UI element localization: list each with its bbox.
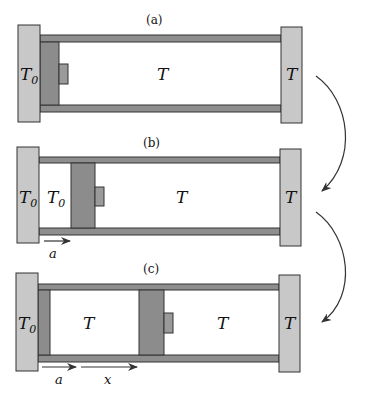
piston-nub [59,64,68,84]
piston-nub [164,313,173,333]
piston-diagram: (a) T0 T T (b) T0 T0 T T a (c) [0,0,366,395]
middle-label: T [83,313,96,333]
left-piston [38,290,50,355]
right-reservoir-label: T [284,313,297,333]
piston-nub [95,187,104,206]
bottom-rail [40,105,281,112]
panel-a: (a) T0 T T [18,13,302,123]
piston [40,42,59,105]
panel-b: (b) T0 T0 T T a [17,136,301,261]
arrow-a-label: a [49,246,57,261]
bottom-rail [39,228,280,235]
panel-c-caption: (c) [143,262,159,276]
top-rail [40,35,281,42]
arrow-a-label: a [55,372,63,387]
top-rail [38,284,279,290]
piston [139,290,164,355]
gas-left-label: T0 [47,187,65,210]
panel-c: (c) T0 T T T a x [16,262,300,387]
panel-b-caption: (b) [143,136,160,150]
transition-arrow-a-to-b [316,76,346,191]
top-rail [39,157,280,163]
right-reservoir-label: T [285,187,298,207]
chamber-label: T [176,187,189,207]
bottom-rail [38,355,279,362]
piston [71,163,95,228]
panel-a-caption: (a) [146,13,163,27]
chamber-label: T [217,313,230,333]
chamber-label: T [157,64,170,84]
right-reservoir-label: T [286,64,299,84]
arrow-x-label: x [104,372,112,387]
transition-arrow-b-to-c [316,212,346,322]
